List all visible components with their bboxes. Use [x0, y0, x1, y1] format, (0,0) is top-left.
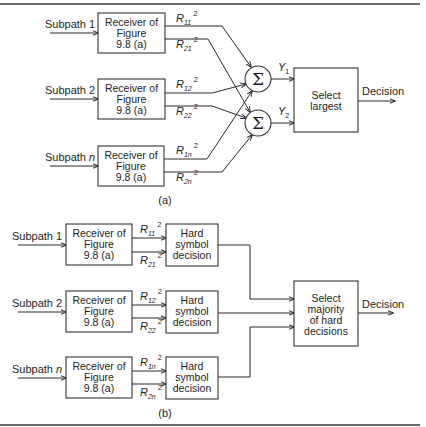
diversity-combining-diagram: Subpath 1 Subpath 2 Subpath n Receiver o…: [0, 0, 426, 427]
subpath-label: Subpath n: [12, 363, 62, 375]
receiver-box-n: Receiver of Figure 9.8 (a): [98, 146, 164, 186]
y1-label: Y1: [278, 61, 289, 75]
summer-2: Σ: [245, 110, 271, 136]
r12-label: R122: [176, 75, 198, 92]
svg-text:decision: decision: [173, 249, 212, 261]
subpath-label: Subpath 1: [12, 230, 62, 242]
r-labels-b: R112 R212 R122 R222 R1n2 R2n2: [140, 220, 162, 400]
svg-text:9.8 (a): 9.8 (a): [116, 38, 146, 50]
hard-decision-box-1: Hard symbol decision: [166, 224, 218, 266]
receiver-box-n: Receiver of Figure 9.8 (a): [66, 357, 132, 398]
input-subpath-n: Subpath n: [45, 151, 98, 166]
decision-label: Decision: [362, 85, 404, 97]
subpath-label: Subpath n: [45, 151, 95, 163]
subpath-label: Subpath 2: [45, 84, 95, 96]
hard-decision-box-2: Hard symbol decision: [166, 291, 218, 333]
decision-label: Decision: [362, 298, 404, 310]
sigma-icon: Σ: [252, 69, 264, 89]
r11-label: R112: [140, 220, 161, 237]
svg-text:decision: decision: [173, 316, 212, 328]
svg-text:9.8 (a): 9.8 (a): [84, 382, 114, 394]
r1n-label: R1n2: [176, 141, 198, 158]
svg-text:decisions: decisions: [304, 325, 348, 337]
subpath-label: Subpath 1: [45, 18, 95, 30]
receiver-box-1: Receiver of Figure 9.8 (a): [98, 13, 165, 53]
input-subpath-1: Subpath 1: [12, 230, 66, 245]
receiver-box-1: Receiver of Figure 9.8 (a): [66, 224, 132, 265]
r22-label: R222: [140, 317, 162, 334]
select-majority-box: Select majority of hard decisions: [294, 281, 358, 346]
wires-to-majority: [218, 245, 294, 377]
caption-b: (b): [158, 407, 171, 419]
sigma-icon: Σ: [252, 113, 264, 133]
r2n-label: R2n2: [140, 383, 162, 400]
svg-text:9.8 (a): 9.8 (a): [84, 316, 114, 328]
receiver-box-2: Receiver of Figure 9.8 (a): [98, 79, 165, 119]
y2-label: Y2: [278, 105, 289, 119]
hard-decision-box-n: Hard symbol decision: [166, 357, 218, 399]
part-b: Subpath 1 Subpath 2 Subpath n Receiver o…: [12, 220, 404, 419]
svg-text:9.8 (a): 9.8 (a): [116, 171, 146, 183]
select-largest-box: Select largest: [294, 68, 358, 132]
input-subpath-2: Subpath 2: [12, 297, 66, 312]
caption-a: (a): [158, 194, 171, 206]
svg-text:9.8 (a): 9.8 (a): [84, 249, 114, 261]
r21-label: R212: [140, 251, 162, 268]
r12-label: R122: [140, 287, 162, 304]
svg-text:9.8 (a): 9.8 (a): [116, 104, 146, 116]
r11-label: R112: [176, 9, 197, 26]
summer-1: Σ: [245, 66, 271, 92]
subpath-label: Subpath 2: [12, 297, 62, 309]
input-subpath-2: Subpath 2: [45, 84, 98, 99]
svg-text:largest: largest: [310, 100, 342, 112]
svg-text:decision: decision: [173, 382, 212, 394]
part-a: Subpath 1 Subpath 2 Subpath n Receiver o…: [45, 9, 404, 206]
r21-label: R212: [176, 35, 198, 52]
r2n-label: R2n2: [176, 168, 198, 185]
r1n-label: R1n2: [140, 353, 162, 370]
input-subpath-1: Subpath 1: [45, 18, 98, 33]
r22-label: R222: [176, 102, 198, 119]
receiver-box-2: Receiver of Figure 9.8 (a): [66, 291, 132, 332]
input-subpath-n: Subpath n: [12, 363, 66, 378]
